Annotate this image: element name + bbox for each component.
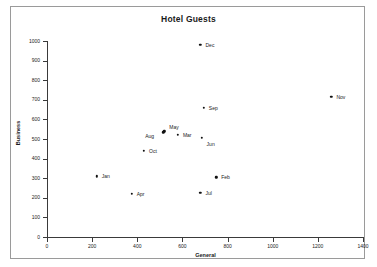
- data-point-label: Sep: [209, 105, 218, 110]
- y-axis-tick-label: 800: [14, 78, 40, 83]
- x-axis-tick-label: 1400: [348, 244, 377, 249]
- data-point-label: Oct: [149, 148, 157, 153]
- x-axis-tick-label: 600: [167, 244, 197, 249]
- data-point-label: Mar: [183, 133, 192, 138]
- x-axis-tick-label: 400: [122, 244, 152, 249]
- y-axis-tick-label: 900: [14, 58, 40, 63]
- x-axis-tick: [92, 238, 93, 242]
- data-point-label: Dec: [205, 42, 214, 47]
- x-axis-tick: [363, 238, 364, 242]
- data-point-label: May: [169, 125, 178, 130]
- data-point-label: Jul: [205, 190, 211, 195]
- y-axis-tick-label: 0: [14, 235, 40, 240]
- x-axis-tick: [318, 238, 319, 242]
- x-axis-tick-label: 1200: [303, 244, 333, 249]
- y-axis-tick-label: 100: [14, 215, 40, 220]
- x-axis-tick-label: 0: [32, 244, 62, 249]
- y-axis-title: Business: [15, 103, 21, 163]
- y-axis-tick-label: 700: [14, 97, 40, 102]
- x-axis-tick-label: 200: [77, 244, 107, 249]
- y-axis-tick-label: 1000: [14, 39, 40, 44]
- x-axis-tick: [228, 238, 229, 242]
- data-point-label: Apr: [137, 191, 145, 196]
- y-axis-tick-label: 200: [14, 195, 40, 200]
- data-point-label: Aug: [145, 134, 154, 139]
- chart-figure: Hotel Guests 010020030040050060070080090…: [0, 0, 377, 267]
- x-axis-tick: [47, 238, 48, 242]
- data-point-label: Nov: [336, 94, 345, 99]
- chart-title: Hotel Guests: [0, 14, 377, 24]
- x-axis-tick: [182, 238, 183, 242]
- x-axis-tick-label: 1000: [258, 244, 288, 249]
- data-point-label: Jan: [102, 174, 110, 179]
- x-axis-title: General: [47, 252, 364, 258]
- y-axis-tick-label: 300: [14, 176, 40, 181]
- x-axis-line: [47, 237, 364, 238]
- x-axis-tick: [137, 238, 138, 242]
- x-axis-tick-label: 800: [213, 244, 243, 249]
- x-axis-tick: [273, 238, 274, 242]
- data-point-label: Jun: [207, 142, 215, 147]
- data-point-label: Feb: [221, 175, 230, 180]
- plot-area: [47, 41, 363, 237]
